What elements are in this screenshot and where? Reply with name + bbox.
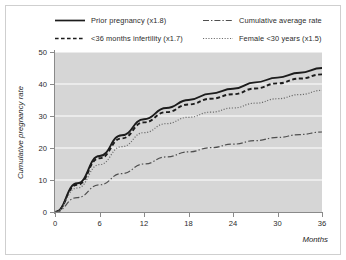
x-tick-mark bbox=[55, 213, 56, 217]
x-tick-label: 12 bbox=[132, 219, 156, 228]
legend-line-solid-icon bbox=[55, 16, 85, 25]
x-tick-mark bbox=[144, 213, 145, 217]
x-tick-label: 36 bbox=[310, 219, 334, 228]
legend-label: <36 months infertility (x1.7) bbox=[91, 34, 183, 43]
x-tick-label: 18 bbox=[177, 219, 201, 228]
y-tick-mark bbox=[50, 84, 54, 85]
x-axis-title: Months bbox=[302, 235, 328, 244]
legend-label: Prior pregnancy (x1.8) bbox=[91, 16, 166, 25]
series-line bbox=[55, 132, 322, 212]
x-tick-label: 30 bbox=[266, 219, 290, 228]
x-tick-mark bbox=[233, 213, 234, 217]
y-tick-mark bbox=[50, 180, 54, 181]
y-tick-label: 10 bbox=[25, 176, 47, 185]
x-tick-mark bbox=[278, 213, 279, 217]
legend-line-dashed-icon bbox=[55, 34, 85, 43]
legend-line-dashdot-icon bbox=[203, 16, 233, 25]
plot-area bbox=[55, 52, 322, 212]
y-axis-line bbox=[54, 50, 55, 214]
y-tick-label: 50 bbox=[25, 48, 47, 57]
y-tick-label: 20 bbox=[25, 144, 47, 153]
y-axis-title: Cumulative pregnancy rate bbox=[16, 73, 25, 193]
legend-item-female-under-30: Female <30 years (x1.5) bbox=[203, 30, 322, 46]
chart-figure: Prior pregnancy (x1.8) Cumulative averag… bbox=[0, 0, 346, 260]
x-tick-label: 24 bbox=[221, 219, 245, 228]
legend-item-cumulative-average-rate: Cumulative average rate bbox=[203, 12, 322, 28]
series-line bbox=[55, 74, 322, 212]
y-tick-mark bbox=[50, 52, 54, 53]
legend-label: Female <30 years (x1.5) bbox=[239, 34, 322, 43]
chart-legend: Prior pregnancy (x1.8) Cumulative averag… bbox=[55, 12, 335, 48]
y-tick-label: 0 bbox=[25, 208, 47, 217]
y-tick-label: 30 bbox=[25, 112, 47, 121]
y-tick-mark bbox=[50, 116, 54, 117]
legend-item-prior-pregnancy: Prior pregnancy (x1.8) bbox=[55, 12, 166, 28]
x-tick-label: 0 bbox=[43, 219, 67, 228]
x-tick-mark bbox=[100, 213, 101, 217]
x-tick-mark bbox=[322, 213, 323, 217]
series-line bbox=[55, 90, 322, 212]
y-tick-label: 40 bbox=[25, 80, 47, 89]
plot-canvas bbox=[55, 52, 322, 212]
series-line bbox=[55, 68, 322, 212]
legend-line-dotted-icon bbox=[203, 34, 233, 43]
y-tick-mark bbox=[50, 148, 54, 149]
legend-label: Cumulative average rate bbox=[239, 16, 322, 25]
y-tick-mark bbox=[50, 212, 54, 213]
x-tick-label: 6 bbox=[88, 219, 112, 228]
legend-item-36-months-infertility: <36 months infertility (x1.7) bbox=[55, 30, 183, 46]
x-tick-mark bbox=[189, 213, 190, 217]
